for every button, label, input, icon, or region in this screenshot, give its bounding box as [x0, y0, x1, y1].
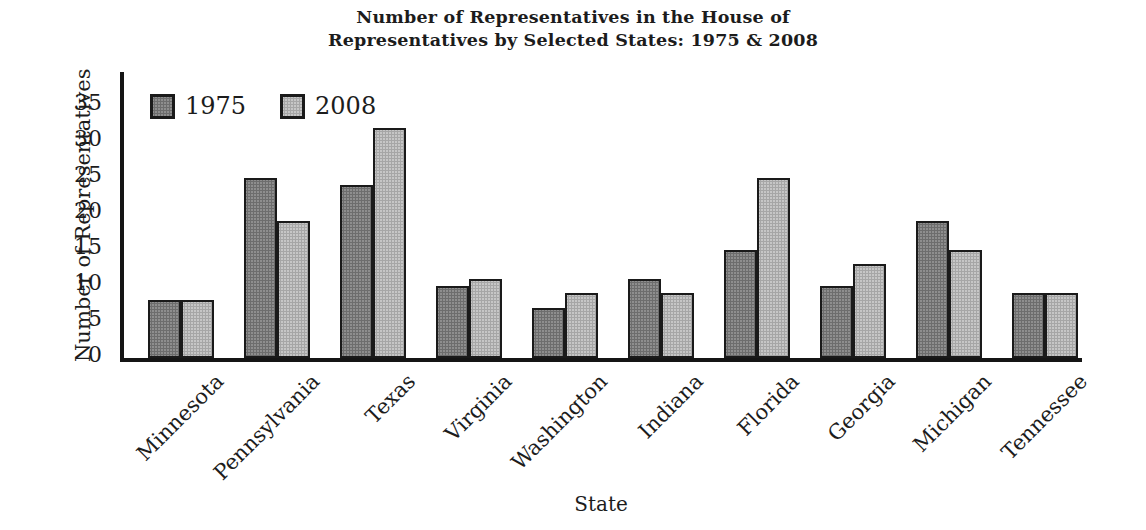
legend-swatch-2008: [280, 94, 305, 119]
bar-tennessee-2008: [1045, 293, 1078, 358]
x-tick-label-minnesota: Minnesota: [133, 370, 228, 465]
bar-tennessee-1975: [1012, 293, 1045, 358]
x-axis-label: State: [120, 492, 1082, 516]
legend-label-1975: 1975: [185, 92, 246, 120]
y-axis-ticks: 05101520253035: [0, 72, 112, 358]
y-tick-5: 5: [88, 306, 102, 332]
bar-michigan-2008: [949, 250, 982, 358]
bar-texas-2008: [373, 128, 406, 358]
y-tick-30: 30: [74, 126, 102, 152]
bar-georgia-1975: [820, 286, 853, 358]
chart-title-line1: Number of Representatives in the House o…: [0, 6, 1146, 29]
x-tick-label-michigan: Michigan: [909, 370, 995, 456]
bar-indiana-2008: [661, 293, 694, 358]
bar-washington-1975: [532, 308, 565, 358]
bar-florida-1975: [724, 250, 757, 358]
bar-georgia-2008: [853, 264, 886, 358]
bar-virginia-1975: [436, 286, 469, 358]
bar-pennsylvania-2008: [277, 221, 310, 358]
x-tick-label-virginia: Virginia: [440, 370, 515, 445]
bar-group-minnesota: [148, 300, 214, 358]
y-tick-10: 10: [74, 270, 102, 296]
chart-title: Number of Representatives in the House o…: [0, 6, 1146, 52]
legend-swatch-1975: [150, 94, 175, 119]
y-tick-0: 0: [88, 342, 102, 368]
bar-texas-1975: [340, 185, 373, 358]
bar-pennsylvania-1975: [244, 178, 277, 358]
y-tick-25: 25: [74, 162, 102, 188]
y-tick-15: 15: [74, 234, 102, 260]
bar-group-michigan: [916, 221, 982, 358]
bar-michigan-1975: [916, 221, 949, 358]
bar-group-florida: [724, 178, 790, 358]
y-tick-20: 20: [74, 198, 102, 224]
plot-area: 1975 2008: [120, 72, 1082, 362]
x-tick-label-indiana: Indiana: [635, 370, 708, 443]
x-tick-label-georgia: Georgia: [824, 370, 899, 445]
x-tick-label-texas: Texas: [362, 370, 420, 428]
legend: 1975 2008: [150, 92, 376, 120]
chart-title-line2: Representatives by Selected States: 1975…: [0, 29, 1146, 52]
x-tick-label-washington: Washington: [508, 370, 612, 474]
bar-minnesota-2008: [181, 300, 214, 358]
bar-group-indiana: [628, 279, 694, 358]
bar-virginia-2008: [469, 279, 502, 358]
x-tick-label-florida: Florida: [734, 370, 804, 440]
bar-washington-2008: [565, 293, 598, 358]
bar-group-washington: [532, 293, 598, 358]
bar-minnesota-1975: [148, 300, 181, 358]
bar-group-tennessee: [1012, 293, 1078, 358]
bar-chart-figure: Number of Representatives in the House o…: [0, 0, 1146, 530]
bar-group-pennsylvania: [244, 178, 310, 358]
bar-indiana-1975: [628, 279, 661, 358]
bar-group-texas: [340, 128, 406, 358]
y-tick-35: 35: [74, 90, 102, 116]
bar-florida-2008: [757, 178, 790, 358]
legend-label-2008: 2008: [315, 92, 376, 120]
x-tick-label-tennessee: Tennessee: [998, 370, 1092, 464]
bar-group-georgia: [820, 264, 886, 358]
bar-group-virginia: [436, 279, 502, 358]
